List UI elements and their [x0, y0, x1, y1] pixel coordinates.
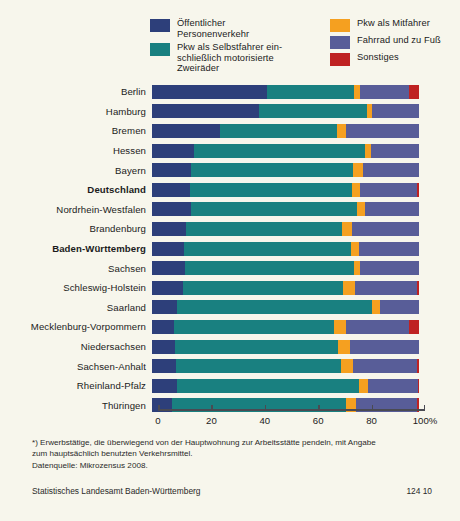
footnote-line-2: zum hauptsächlich benutzten Verkehrsmitt…	[32, 448, 432, 459]
legend-swatch-icon	[150, 19, 170, 32]
bar-segment	[341, 359, 353, 373]
bar-segment	[183, 281, 343, 295]
stacked-bar	[152, 340, 419, 354]
source-row: Statistisches Landesamt Baden-Württember…	[32, 486, 432, 496]
axis-tick-label: 80	[366, 415, 377, 426]
stacked-bar	[152, 124, 419, 138]
category-label: Nordrhein-Westfalen	[0, 204, 152, 215]
chart-row: Mecklenburg-Vorpommern	[0, 317, 460, 337]
bar-segment	[338, 340, 350, 354]
bar-segment	[152, 281, 183, 295]
bar-segment	[353, 359, 417, 373]
footnote-line-3: Datenquelle: Mikrozensus 2008.	[32, 460, 432, 471]
bar-segment	[417, 359, 419, 373]
chart-row: Bremen	[0, 121, 460, 141]
stacked-bar-chart: BerlinHamburgBremenHessenBayernDeutschla…	[0, 82, 460, 412]
category-label: Rheinland-Pfalz	[0, 380, 152, 391]
bar-segment	[365, 202, 419, 216]
stacked-bar	[152, 320, 419, 334]
bar-segment	[380, 300, 419, 314]
category-label: Deutschland	[0, 184, 152, 195]
category-label: Sachsen	[0, 263, 152, 274]
axis-tick-label: 60	[313, 415, 324, 426]
axis-tick-label: 100%	[413, 415, 438, 426]
bar-segment	[191, 202, 357, 216]
bar-segment	[185, 261, 354, 275]
legend-swatch-icon	[330, 36, 350, 49]
legend-label: Pkw als Mitfahrer	[357, 18, 430, 29]
bar-segment	[259, 104, 367, 118]
bar-segment	[346, 124, 419, 138]
stacked-bar	[152, 261, 419, 275]
axis-tick	[372, 405, 374, 410]
legend-label: Öffentlicher Personenverkehr	[177, 18, 249, 39]
bar-segment	[184, 242, 351, 256]
bar-segment	[152, 163, 191, 177]
bar-segment	[334, 320, 346, 334]
source-code: 124 10	[406, 486, 432, 496]
bar-segment	[152, 104, 259, 118]
legend-label: Sonstiges	[357, 52, 399, 63]
x-axis-line	[158, 409, 425, 411]
chart-row: Deutschland	[0, 180, 460, 200]
bar-segment	[409, 85, 419, 99]
bar-segment	[355, 281, 417, 295]
chart-row: Bayern	[0, 160, 460, 180]
legend-swatch-icon	[330, 19, 350, 32]
category-label: Schleswig-Holstein	[0, 282, 152, 293]
stacked-bar	[152, 281, 419, 295]
stacked-bar	[152, 85, 419, 99]
bar-segment	[343, 281, 355, 295]
stacked-bar	[152, 300, 419, 314]
stacked-bar	[152, 104, 419, 118]
bar-segment	[417, 281, 419, 295]
bar-segment	[186, 222, 342, 236]
stacked-bar	[152, 144, 419, 158]
stacked-bar	[152, 163, 419, 177]
chart-row: Sachsen	[0, 258, 460, 278]
footnote-line-1: *) Erwerbstätige, die überwiegend von de…	[32, 437, 432, 448]
bar-segment	[152, 222, 186, 236]
category-label: Brandenburg	[0, 223, 152, 234]
bar-segment	[352, 222, 419, 236]
chart-row: Baden-Württemberg	[0, 239, 460, 259]
chart-row: Berlin	[0, 82, 460, 102]
bar-segment	[360, 85, 409, 99]
bar-segment	[359, 379, 368, 393]
axis-tick-label: 40	[259, 415, 270, 426]
legend-swatch-icon	[330, 53, 350, 66]
axis-tick	[265, 405, 267, 410]
stacked-bar	[152, 359, 419, 373]
category-label: Bremen	[0, 125, 152, 136]
x-axis: 020406080100%	[158, 409, 425, 431]
bar-segment	[174, 320, 334, 334]
axis-tick-label: 20	[206, 415, 217, 426]
legend-item: Öffentlicher Personenverkehr	[150, 18, 312, 39]
category-label: Sachsen-Anhalt	[0, 361, 152, 372]
chart-row: Schleswig-Holstein	[0, 278, 460, 298]
bar-segment	[417, 183, 419, 197]
bar-segment	[177, 379, 359, 393]
bar-segment	[177, 300, 372, 314]
bar-segment	[152, 183, 190, 197]
bar-segment	[363, 163, 419, 177]
axis-tick-label: 0	[155, 415, 160, 426]
chart-row: Sachsen-Anhalt	[0, 356, 460, 376]
bar-segment	[353, 163, 363, 177]
stacked-bar	[152, 379, 419, 393]
legend-item: Pkw als Selbstfahrer ein- schließlich mo…	[150, 42, 312, 74]
bar-segment	[175, 340, 338, 354]
category-label: Mecklenburg-Vorpommern	[0, 321, 152, 332]
bar-segment	[360, 261, 419, 275]
bar-segment	[360, 183, 417, 197]
stacked-bar	[152, 242, 419, 256]
bar-segment	[220, 124, 337, 138]
bar-segment	[190, 183, 352, 197]
legend-label: Pkw als Selbstfahrer ein- schließlich mo…	[177, 42, 282, 74]
category-label: Berlin	[0, 86, 152, 97]
bar-segment	[368, 379, 418, 393]
axis-tick	[318, 405, 320, 410]
chart-row: Nordrhein-Westfalen	[0, 200, 460, 220]
bar-segment	[357, 202, 365, 216]
chart-row: Rheinland-Pfalz	[0, 376, 460, 396]
